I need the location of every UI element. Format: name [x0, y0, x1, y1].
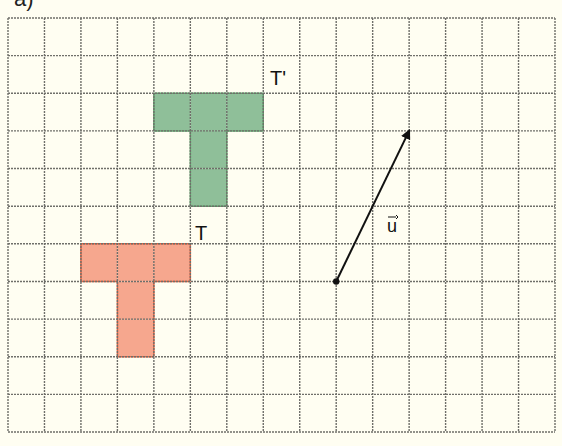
- shape-cell: [154, 93, 190, 131]
- label-T: T: [195, 222, 207, 244]
- shape-cell: [154, 244, 190, 282]
- shape-cell: [227, 93, 263, 131]
- vector-origin-dot: [333, 278, 339, 284]
- shapes-layer: [81, 93, 263, 356]
- shape-cell: [117, 281, 153, 319]
- vector-u: [333, 131, 409, 285]
- shape-T-prime: [154, 93, 263, 206]
- shape-cell: [190, 131, 226, 169]
- shape-cell: [117, 244, 153, 282]
- shape-cell: [190, 93, 226, 131]
- shape-cell: [81, 244, 117, 282]
- translation-diagram: TT'u: [0, 0, 562, 446]
- shape-cell: [190, 169, 226, 207]
- shape-T: [81, 244, 190, 357]
- label-vector-u: u: [387, 216, 397, 236]
- shape-cell: [117, 319, 153, 357]
- label-T-prime: T': [270, 67, 286, 89]
